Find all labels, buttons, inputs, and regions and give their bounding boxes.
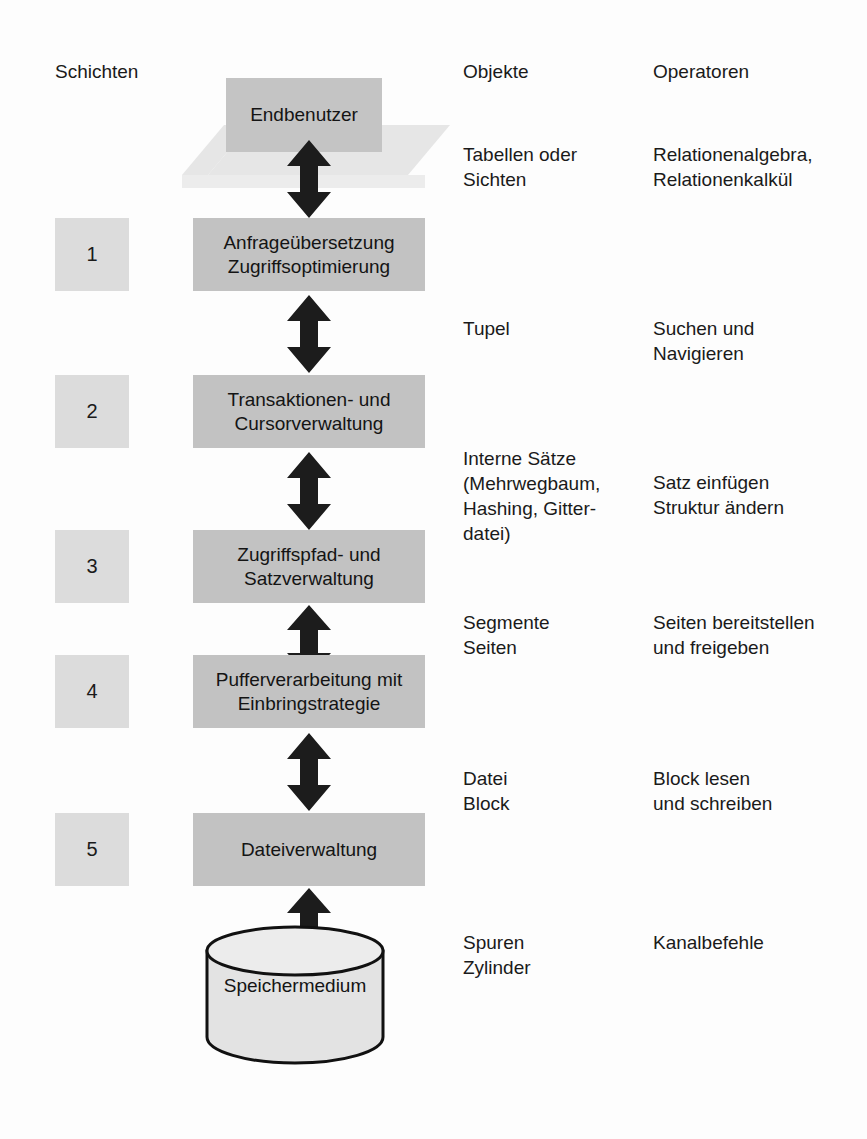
operators-label-2: Suchen und Navigieren (653, 316, 754, 366)
layer-box-1[interactable]: Anfrageübersetzung Zugriffsoptimierung (193, 218, 425, 291)
layer-box-2[interactable]: Transaktionen- und Cursorverwaltung (193, 375, 425, 448)
objects-label-1: Tabellen oder Sichten (463, 142, 577, 192)
operators-label-4: Seiten bereitstellen und freigeben (653, 610, 815, 660)
objects-label-3: Interne Sätze (Mehrwegbaum, Hashing, Git… (463, 446, 600, 546)
layer-box-4-label: Pufferverarbeitung mit Einbringstrategie (216, 668, 403, 716)
layer-number-5-label: 5 (86, 838, 97, 861)
layer-number-3-label: 3 (86, 555, 97, 578)
arrow-layer2-to-layer3 (287, 452, 331, 530)
layer-box-3-label: Zugriffspfad- und Satzverwaltung (237, 543, 380, 591)
layer-box-2-label: Transaktionen- und Cursorverwaltung (227, 388, 390, 436)
layer-number-4-label: 4 (86, 680, 97, 703)
diagram-canvas: Schichten Objekte Operatoren Endbenutzer… (0, 0, 867, 1139)
layer-number-3: 3 (55, 530, 129, 603)
layer-box-3[interactable]: Zugriffspfad- und Satzverwaltung (193, 530, 425, 603)
layer-box-5-label: Dateiverwaltung (241, 838, 377, 862)
operators-label-1: Relationenalgebra, Relationenkalkül (653, 142, 813, 192)
layer-number-2-label: 2 (86, 400, 97, 423)
layer-number-2: 2 (55, 375, 129, 448)
layer-box-5[interactable]: Dateiverwaltung (193, 813, 425, 886)
objects-label-4: Segmente Seiten (463, 610, 550, 660)
layer-number-1-label: 1 (86, 243, 97, 266)
node-speichermedium (205, 925, 385, 1070)
objects-label-2: Tupel (463, 316, 510, 341)
column-header-layers: Schichten (55, 60, 138, 84)
node-speichermedium-label: Speichermedium (205, 975, 385, 997)
operators-label-6: Kanalbefehle (653, 930, 764, 955)
column-header-objects: Objekte (463, 60, 528, 84)
objects-label-6: Spuren Zylinder (463, 930, 531, 980)
objects-label-5: Datei Block (463, 766, 509, 816)
layer-number-1: 1 (55, 218, 129, 291)
arrow-enduser-to-layer1 (287, 140, 331, 218)
arrow-layer4-to-layer5 (287, 733, 331, 811)
cylinder-shape (205, 925, 385, 1070)
layer-number-4: 4 (55, 655, 129, 728)
layer-box-1-label: Anfrageübersetzung Zugriffsoptimierung (223, 231, 394, 279)
arrow-layer1-to-layer2 (287, 295, 331, 373)
column-header-operators: Operatoren (653, 60, 749, 84)
layer-number-5: 5 (55, 813, 129, 886)
operators-label-3: Satz einfügen Struktur ändern (653, 470, 784, 520)
layer-box-4[interactable]: Pufferverarbeitung mit Einbringstrategie (193, 655, 425, 728)
operators-label-5: Block lesen und schreiben (653, 766, 772, 816)
